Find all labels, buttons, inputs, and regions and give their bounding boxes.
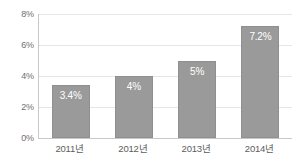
bar-slot-2014: 7.2%	[229, 14, 292, 138]
bar-value-label-2013: 5%	[179, 67, 215, 77]
y-tick-label-6: 6%	[2, 41, 34, 50]
bar-slot-2012: 4%	[102, 14, 165, 138]
y-tick-label-2: 2%	[2, 103, 34, 112]
y-axis: 8% 6% 4% 2% 0%	[0, 0, 34, 168]
bar-2012[interactable]: 4%	[115, 76, 153, 138]
x-tick-label-2014: 2014년	[228, 143, 291, 154]
bar-slot-2011: 3.4%	[39, 14, 102, 138]
bar-2014[interactable]: 7.2%	[241, 26, 279, 138]
bar-2011[interactable]: 3.4%	[52, 85, 90, 138]
plot-area: 3.4% 4% 5% 7.2%	[38, 14, 292, 139]
bar-2013[interactable]: 5%	[178, 61, 216, 139]
y-tick-label-4: 4%	[2, 72, 34, 81]
y-tick-label-0: 0%	[2, 134, 34, 143]
bar-value-label-2012: 4%	[116, 82, 152, 92]
x-tick-label-2012: 2012년	[101, 143, 164, 154]
bar-value-label-2011: 3.4%	[53, 91, 89, 101]
x-axis: 2011년 2012년 2013년 2014년	[38, 143, 291, 163]
x-tick-label-2013: 2013년	[165, 143, 228, 154]
bar-chart: 8% 6% 4% 2% 0% 3.4% 4% 5%	[0, 0, 300, 168]
bars-layer: 3.4% 4% 5% 7.2%	[39, 14, 292, 138]
y-tick-label-8: 8%	[2, 10, 34, 19]
x-tick-label-2011: 2011년	[38, 143, 101, 154]
bar-value-label-2014: 7.2%	[242, 32, 278, 42]
bar-slot-2013: 5%	[166, 14, 229, 138]
